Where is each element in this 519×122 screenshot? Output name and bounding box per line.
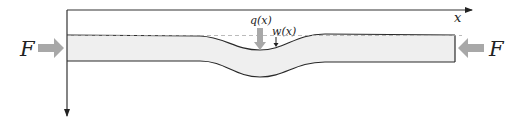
load-arrow-icon [254, 28, 266, 50]
load-label: q(x) [250, 14, 272, 27]
right-force-label: F [488, 37, 505, 61]
deflection-arrowhead-icon [274, 43, 279, 47]
left-force-label: F [19, 37, 36, 61]
beam-diagram: x F F q(x) w(x) [0, 0, 519, 122]
right-force-arrow-icon [458, 38, 484, 58]
x-axis-label: x [454, 10, 462, 25]
deflection-label: w(x) [272, 25, 296, 38]
left-force-arrow-icon [38, 38, 64, 58]
